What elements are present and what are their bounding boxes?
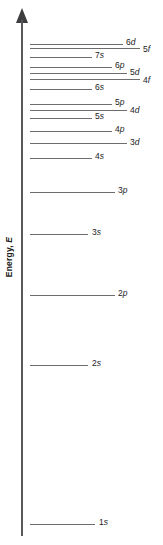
energy-level-line-2s [30, 365, 88, 366]
level-subshell-letter: p [120, 124, 125, 134]
energy-level-label-4d: 4d [130, 106, 139, 115]
energy-axis [21, 20, 23, 536]
energy-level-line-4f [30, 79, 140, 80]
energy-level-label-4s: 4s [95, 152, 104, 161]
energy-level-line-3d [30, 143, 127, 144]
energy-level-line-4s [30, 158, 92, 159]
energy-level-label-3p: 3p [118, 186, 127, 195]
energy-level-label-3d: 3d [130, 138, 139, 147]
energy-level-line-3s [30, 234, 88, 235]
energy-level-line-4d [30, 110, 127, 111]
level-subshell-letter: s [100, 50, 104, 60]
level-subshell-letter: s [97, 227, 101, 237]
level-subshell-letter: p [120, 97, 125, 107]
level-subshell-letter: p [123, 288, 128, 298]
energy-level-label-7s: 7s [95, 51, 104, 60]
level-subshell-letter: p [123, 185, 128, 195]
energy-level-label-2s: 2s [92, 359, 101, 368]
level-subshell-letter: d [135, 105, 140, 115]
level-subshell-letter: d [135, 137, 140, 147]
level-subshell-letter: f [148, 44, 150, 54]
energy-level-line-2p [30, 295, 115, 296]
energy-level-line-5d [30, 73, 127, 74]
axis-title-energy: Energy, E [4, 222, 14, 292]
energy-level-diagram: Energy, E 6d5f7s6p5d4f6s5p4d5s4p3d4s3p3s… [0, 0, 163, 545]
energy-level-label-5s: 5s [95, 112, 104, 121]
level-subshell-letter: f [148, 75, 150, 85]
energy-level-line-6p [30, 67, 112, 68]
energy-level-label-2p: 2p [118, 289, 127, 298]
energy-level-label-4p: 4p [115, 125, 124, 134]
axis-title-symbol: E [4, 237, 14, 243]
energy-level-line-7s [30, 57, 92, 58]
level-subshell-letter: s [100, 151, 104, 161]
energy-level-line-3p [30, 192, 115, 193]
energy-level-label-6p: 6p [115, 61, 124, 70]
energy-level-label-5f: 5f [143, 45, 150, 54]
energy-level-line-4p [30, 131, 112, 132]
energy-level-line-6d [30, 44, 123, 45]
level-subshell-letter: s [104, 517, 108, 527]
energy-level-line-5f [30, 48, 140, 49]
level-subshell-letter: s [100, 82, 104, 92]
energy-level-line-1s [30, 524, 95, 525]
energy-level-label-3s: 3s [92, 228, 101, 237]
energy-level-label-5d: 5d [130, 68, 139, 77]
level-subshell-letter: p [120, 60, 125, 70]
level-subshell-letter: s [97, 358, 101, 368]
energy-level-label-6d: 6d [126, 38, 135, 47]
energy-level-line-5p [30, 104, 112, 105]
level-subshell-letter: s [100, 111, 104, 121]
energy-level-line-6s [30, 89, 92, 90]
energy-level-label-6s: 6s [95, 83, 104, 92]
level-subshell-letter: d [131, 37, 136, 47]
level-subshell-letter: d [135, 67, 140, 77]
energy-level-label-4f: 4f [143, 76, 150, 85]
axis-title-prefix: Energy, [4, 243, 14, 278]
energy-level-line-5s [30, 118, 92, 119]
energy-level-label-1s: 1s [99, 518, 108, 527]
energy-level-label-5p: 5p [115, 98, 124, 107]
